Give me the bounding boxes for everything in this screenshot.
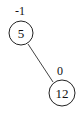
node-value: 12 bbox=[56, 86, 69, 101]
node-value: 5 bbox=[18, 26, 25, 41]
edge-5-to-12 bbox=[28, 44, 53, 82]
balance-factor-label: 0 bbox=[57, 64, 63, 78]
tree-node-12: 0 12 bbox=[49, 64, 75, 106]
avl-tree-diagram: -1 5 0 12 bbox=[0, 0, 79, 113]
tree-node-5: -1 5 bbox=[9, 4, 33, 45]
balance-factor-label: -1 bbox=[15, 4, 25, 18]
